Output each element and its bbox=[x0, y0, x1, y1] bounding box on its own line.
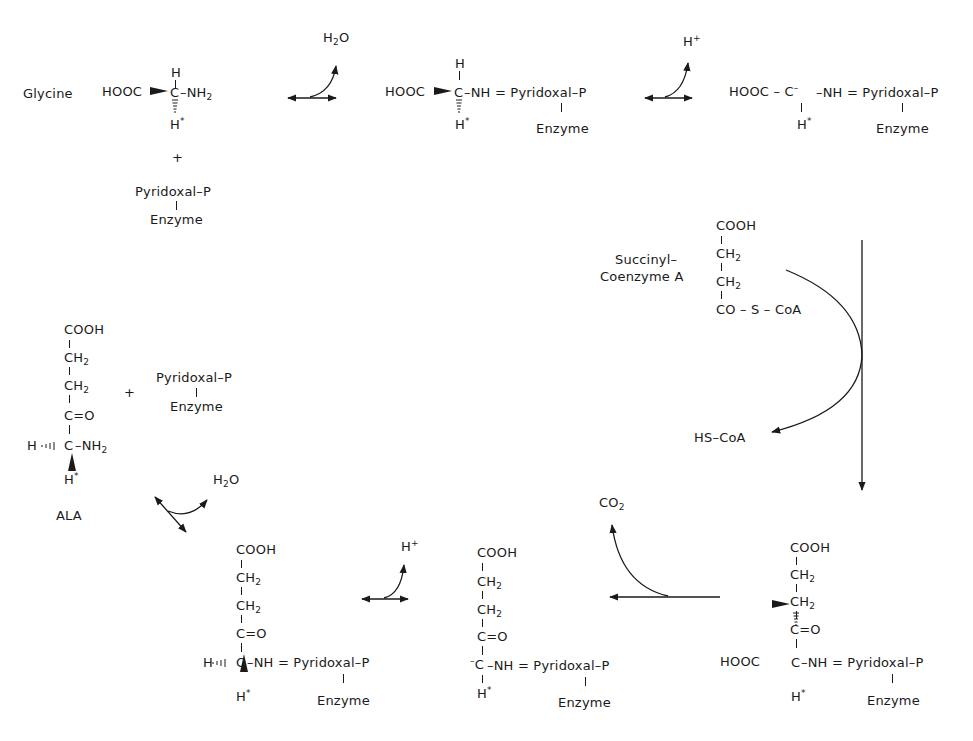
labeled-h-star: H* bbox=[797, 118, 812, 132]
bond bbox=[482, 563, 483, 571]
bond bbox=[796, 639, 797, 648]
alpha-carbon: C bbox=[236, 656, 245, 670]
pyridoxal-p: Pyridoxal–P bbox=[156, 371, 232, 385]
hooc-group: HOOC bbox=[385, 85, 425, 99]
bond bbox=[69, 425, 70, 434]
amino-group: –NH2 bbox=[180, 86, 213, 100]
labeled-h-star: H* bbox=[64, 473, 79, 487]
bond bbox=[69, 367, 70, 375]
ch2-group: CH2 bbox=[790, 595, 815, 609]
nh-pyridoxal: –NH = Pyridoxal–P bbox=[487, 659, 609, 673]
bond bbox=[482, 591, 483, 599]
labeled-h-star: H* bbox=[477, 687, 492, 701]
equilibrium-arrow-hplus-bottom bbox=[362, 565, 408, 599]
h2o-left: H2O bbox=[213, 473, 239, 487]
equilibrium-arrow-h2o-top bbox=[288, 66, 336, 98]
bond bbox=[176, 201, 177, 210]
alpha-carbon: C bbox=[64, 439, 73, 453]
bond bbox=[801, 103, 802, 112]
nh-pyridoxal: –NH = Pyridoxal–P bbox=[247, 656, 369, 670]
bond bbox=[721, 291, 722, 299]
enzyme: Enzyme bbox=[150, 213, 203, 227]
hooc-group: HOOC bbox=[720, 655, 760, 669]
h-atom: H bbox=[455, 57, 465, 71]
nh-pyridoxal: –NH = Pyridoxal–P bbox=[464, 86, 586, 100]
bond bbox=[892, 674, 893, 683]
bond bbox=[241, 643, 242, 652]
bond bbox=[482, 675, 483, 683]
bond bbox=[561, 103, 562, 112]
cooh-group: COOH bbox=[64, 323, 104, 337]
plus-sign: + bbox=[124, 386, 135, 400]
alpha-carbon: C bbox=[454, 86, 463, 100]
hooc-group: HOOC bbox=[102, 85, 142, 99]
nh-pyridoxal: –NH = Pyridoxal–P bbox=[816, 86, 938, 100]
labeled-h-star: H* bbox=[170, 118, 185, 132]
alpha-carbon: C bbox=[170, 86, 179, 100]
enzyme: Enzyme bbox=[317, 694, 370, 708]
carbonyl: C=O bbox=[790, 623, 821, 637]
enzyme: Enzyme bbox=[876, 122, 929, 136]
ch2-group: CH2 bbox=[477, 603, 502, 617]
bond bbox=[196, 388, 197, 397]
bond bbox=[482, 646, 483, 655]
enzyme: Enzyme bbox=[170, 400, 223, 414]
bond bbox=[721, 236, 722, 244]
bond bbox=[343, 674, 344, 683]
plus-sign: + bbox=[172, 151, 183, 165]
equilibrium-arrow-h2o-left bbox=[155, 497, 207, 532]
bond bbox=[796, 611, 797, 619]
succinyl-label: Succinyl– bbox=[615, 253, 677, 267]
labeled-h-star: H* bbox=[791, 690, 806, 704]
ch2-group: CH2 bbox=[477, 575, 502, 589]
pyridoxal-p: Pyridoxal–P bbox=[135, 185, 211, 199]
alpha-carbon: C bbox=[791, 656, 800, 670]
enzyme: Enzyme bbox=[558, 696, 611, 710]
glycine-label: Glycine bbox=[23, 87, 73, 101]
co2: CO2 bbox=[599, 496, 625, 510]
cooh-group: COOH bbox=[236, 543, 276, 557]
hplus-top: H+ bbox=[683, 35, 701, 49]
bond bbox=[69, 395, 70, 403]
bond bbox=[796, 557, 797, 565]
bond bbox=[585, 677, 586, 686]
cooh-group: COOH bbox=[477, 546, 517, 560]
condensation-arrow bbox=[772, 240, 862, 490]
ch2-group: CH2 bbox=[236, 571, 261, 585]
enzyme: Enzyme bbox=[867, 694, 920, 708]
amino-group: –NH2 bbox=[75, 439, 108, 453]
carbonyl: C=O bbox=[64, 409, 95, 423]
bond bbox=[482, 619, 483, 627]
h-atom: H bbox=[203, 656, 213, 670]
bond bbox=[241, 587, 242, 595]
ch2-group: CH2 bbox=[64, 379, 89, 393]
bond bbox=[721, 263, 722, 271]
coenzyme-a-label: Coenzyme A bbox=[600, 270, 683, 284]
h-atom: H bbox=[171, 66, 181, 80]
ch2-group: CH2 bbox=[236, 599, 261, 613]
labeled-h-star: H* bbox=[455, 118, 470, 132]
labeled-h-star: H* bbox=[236, 690, 251, 704]
carbonyl: C=O bbox=[477, 630, 508, 644]
ch2-group: CH2 bbox=[790, 568, 815, 582]
h2o-top: H2O bbox=[323, 31, 349, 45]
ala-label: ALA bbox=[56, 509, 82, 523]
equilibrium-arrow-hplus-top bbox=[645, 63, 692, 98]
bond bbox=[241, 560, 242, 568]
cooh-group: COOH bbox=[790, 541, 830, 555]
co-s-coa: CO – S – CoA bbox=[716, 303, 801, 317]
bond bbox=[241, 615, 242, 623]
h-atom: H bbox=[27, 439, 37, 453]
hplus-bottom: H+ bbox=[401, 540, 419, 554]
bond bbox=[69, 340, 70, 348]
hs-coa: HS–CoA bbox=[694, 431, 746, 445]
bond bbox=[459, 71, 460, 80]
nh-pyridoxal: –NH = Pyridoxal–P bbox=[801, 656, 923, 670]
cooh-group: COOH bbox=[716, 219, 756, 233]
hooc-c: HOOC – C– bbox=[729, 85, 798, 99]
ch2-group: CH2 bbox=[716, 247, 741, 261]
bond bbox=[902, 103, 903, 112]
decarboxylation-arrow bbox=[610, 525, 720, 597]
alpha-carbon-anion: –C bbox=[470, 658, 484, 672]
enzyme: Enzyme bbox=[536, 122, 589, 136]
